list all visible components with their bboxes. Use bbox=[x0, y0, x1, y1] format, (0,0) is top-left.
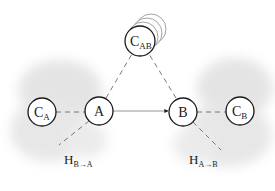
svg-text:B: B bbox=[178, 105, 187, 120]
node-a: A bbox=[85, 97, 113, 125]
diagram: CAB CA A B CB HB→A HA→B bbox=[0, 0, 275, 191]
node-c-ab: CAB bbox=[125, 26, 155, 56]
node-c-a: CA bbox=[28, 98, 56, 126]
node-b: B bbox=[169, 98, 197, 126]
edge-b-cab bbox=[149, 54, 176, 98]
edge-a-cab bbox=[106, 54, 132, 98]
svg-text:A: A bbox=[94, 104, 105, 119]
node-c-b: CB bbox=[226, 97, 254, 125]
